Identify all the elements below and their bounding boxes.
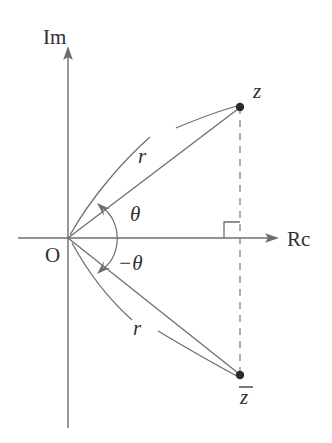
radius-label-upper: r bbox=[138, 144, 147, 168]
point-marker-z-conjugate bbox=[236, 371, 244, 379]
radius-label-lower: r bbox=[133, 316, 142, 340]
radius-ray-lower bbox=[68, 238, 238, 373]
angle-label-negative-theta: −θ bbox=[118, 251, 143, 275]
complex-plane-figure: Im Rc O z z r r θ −θ bbox=[0, 0, 332, 443]
imaginary-axis-label: Im bbox=[43, 25, 66, 49]
right-angle-mark bbox=[224, 222, 240, 238]
angle-label-theta: θ bbox=[130, 202, 140, 226]
radius-brace-lower-right bbox=[158, 331, 237, 376]
imaginary-axis-group bbox=[63, 46, 73, 428]
radius-ray-upper bbox=[68, 109, 238, 238]
point-label-z-conjugate: z bbox=[239, 385, 248, 409]
point-marker-z bbox=[236, 103, 244, 111]
origin-label: O bbox=[45, 243, 60, 267]
point-label-z: z bbox=[252, 79, 261, 103]
argand-diagram-canvas: Im Rc O z z r r θ −θ bbox=[0, 0, 332, 443]
real-axis-label: Rc bbox=[287, 227, 310, 251]
